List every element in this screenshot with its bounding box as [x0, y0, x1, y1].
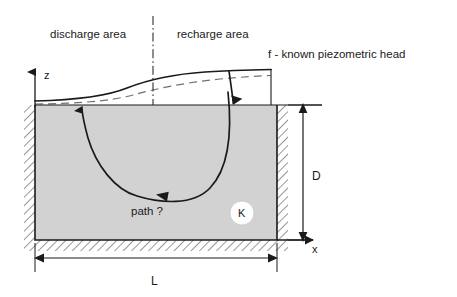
- groundwater-flow-diagram: discharge area recharge area f - known p…: [0, 0, 457, 297]
- flow-path-label: path ?: [131, 205, 163, 217]
- piezometric-head-note: f - known piezometric head: [268, 48, 405, 60]
- depth-dimension-label: D: [312, 169, 321, 183]
- left-impermeable-boundary-hatch: [24, 105, 35, 241]
- recharge-arrow: [229, 71, 233, 100]
- recharge-area-label: recharge area: [177, 28, 249, 40]
- bottom-impermeable-boundary-hatch: [24, 240, 288, 251]
- hydraulic-conductivity-label: K: [238, 207, 246, 219]
- right-impermeable-boundary-hatch: [277, 105, 288, 241]
- figure-container: discharge area recharge area f - known p…: [0, 0, 457, 297]
- z-axis-label: z: [44, 69, 50, 81]
- length-dimension-label: L: [151, 274, 158, 288]
- discharge-area-label: discharge area: [50, 28, 127, 40]
- x-axis-label: x: [312, 243, 318, 255]
